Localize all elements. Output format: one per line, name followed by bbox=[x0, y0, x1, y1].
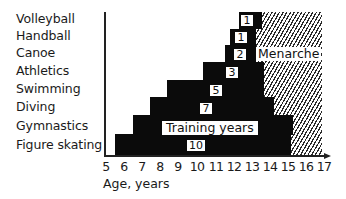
category-label-volleyball: Volleyball bbox=[16, 12, 75, 26]
x-tick-6: 6 bbox=[120, 160, 127, 174]
x-tick-12: 12 bbox=[227, 160, 242, 174]
value-label-swimming: 5 bbox=[210, 85, 222, 96]
category-label-swimming: Swimming bbox=[16, 82, 81, 96]
value-label-figure-skating: 10 bbox=[187, 140, 205, 151]
category-label-figure-skating: Figure skating bbox=[16, 138, 102, 152]
category-label-gymnastics: Gymnastics bbox=[16, 119, 88, 133]
x-tick-17: 17 bbox=[317, 160, 332, 174]
y-axis bbox=[104, 12, 106, 156]
x-tick-16: 16 bbox=[299, 160, 314, 174]
bar-diving bbox=[150, 97, 274, 116]
training-years-annotation: Training years bbox=[162, 121, 258, 135]
x-tick-13: 13 bbox=[245, 160, 260, 174]
value-label-diving: 7 bbox=[200, 103, 212, 114]
x-tick-7: 7 bbox=[138, 160, 145, 174]
x-axis bbox=[104, 155, 326, 157]
x-tick-8: 8 bbox=[156, 160, 163, 174]
menarche-annotation: Menarche bbox=[256, 47, 321, 61]
x-axis-arrow-icon bbox=[324, 153, 331, 159]
x-tick-11: 11 bbox=[209, 160, 224, 174]
x-tick-9: 9 bbox=[174, 160, 181, 174]
x-axis-title: Age, years bbox=[103, 177, 170, 191]
category-label-handball: Handball bbox=[16, 29, 71, 43]
value-label-athletics: 3 bbox=[226, 67, 238, 78]
training-years-chart: 1 1 2 3 5 7 10 Training years Menarche V… bbox=[0, 0, 346, 199]
value-label-volleyball: 1 bbox=[241, 15, 253, 26]
value-label-handball: 1 bbox=[235, 32, 247, 43]
x-tick-10: 10 bbox=[190, 160, 205, 174]
category-label-canoe: Canoe bbox=[16, 46, 55, 60]
x-tick-5: 5 bbox=[102, 160, 109, 174]
x-tick-15: 15 bbox=[281, 160, 296, 174]
category-label-diving: Diving bbox=[16, 100, 55, 114]
x-tick-14: 14 bbox=[263, 160, 278, 174]
value-label-canoe: 2 bbox=[234, 49, 246, 60]
category-label-athletics: Athletics bbox=[16, 64, 69, 78]
